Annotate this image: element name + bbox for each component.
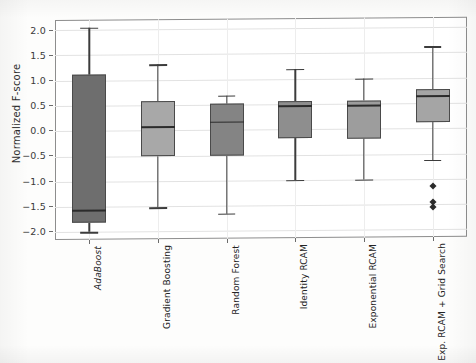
median-line <box>416 95 450 97</box>
y-tick-mark <box>49 155 53 156</box>
outlier-marker <box>429 183 436 190</box>
box-iqr <box>278 101 312 138</box>
outlier-marker <box>429 204 436 211</box>
upper-whisker <box>363 78 364 101</box>
median-line <box>72 210 106 212</box>
y-tick-mark <box>49 231 53 232</box>
plot-area <box>55 20 467 240</box>
y-tick-label: 2.0 <box>30 25 46 36</box>
x-tick-label: Random Forest <box>231 245 241 315</box>
x-tick-mark <box>89 240 90 244</box>
upper-whisker-cap <box>286 69 304 71</box>
upper-whisker-cap <box>355 78 373 80</box>
y-tick-label: 1.5 <box>30 50 46 61</box>
box-plot-data-layer <box>55 17 467 240</box>
y-tick-mark <box>49 55 53 56</box>
lower-whisker-cap <box>286 180 304 182</box>
box-iqr <box>347 101 381 139</box>
y-tick-mark <box>49 105 53 106</box>
median-line <box>347 104 381 106</box>
y-axis-label: Normalized F-score <box>11 34 22 194</box>
y-tick-label: 1.0 <box>30 75 46 86</box>
lower-whisker <box>226 155 227 213</box>
x-tick-label: Exponential RCAM <box>368 244 378 329</box>
x-tick-label: AdaBoost <box>93 246 103 290</box>
x-tick-label: Gradient Boosting <box>162 245 172 329</box>
y-tick-label: −0.5 <box>22 150 46 161</box>
upper-whisker <box>295 69 296 102</box>
upper-whisker-cap <box>149 64 167 66</box>
x-tick-mark <box>227 239 228 243</box>
y-axis-ticks: 2.01.51.00.50.0−0.5−1.0−1.5−2.0 <box>0 20 55 240</box>
upper-whisker-cap <box>424 46 442 48</box>
y-tick-mark <box>49 130 53 131</box>
box-iqr <box>72 74 106 223</box>
y-tick-label: 0.5 <box>30 100 46 111</box>
lower-whisker-cap <box>355 179 373 181</box>
scan-header-artifact <box>6 0 206 9</box>
x-tick-mark <box>364 238 365 242</box>
lower-whisker <box>157 156 158 208</box>
median-line <box>210 121 244 123</box>
median-line <box>141 126 175 128</box>
y-tick-mark <box>49 30 53 31</box>
lower-whisker <box>363 139 364 179</box>
box-plot-group <box>398 17 467 238</box>
y-tick-mark <box>49 181 53 182</box>
x-axis-ticks: AdaBoostGradient BoostingRandom ForestId… <box>55 240 467 360</box>
box-iqr <box>416 89 450 123</box>
y-tick-mark <box>49 80 53 81</box>
upper-whisker <box>432 46 433 88</box>
y-tick-label: −1.5 <box>22 200 46 211</box>
x-tick-mark <box>158 239 159 243</box>
lower-whisker <box>89 223 90 232</box>
box-plot-group <box>124 19 193 240</box>
x-tick-mark <box>295 238 296 242</box>
lower-whisker <box>295 138 296 179</box>
lower-whisker-cap <box>424 160 442 162</box>
upper-whisker-cap <box>218 95 236 97</box>
x-tick-label: Identity RCAM <box>299 244 309 309</box>
y-tick-label: −2.0 <box>22 225 46 236</box>
y-tick-label: 0.0 <box>30 125 46 136</box>
y-tick-mark <box>49 206 53 207</box>
box-iqr <box>210 103 244 155</box>
upper-whisker <box>89 27 90 74</box>
box-plot-group <box>330 17 399 238</box>
upper-whisker <box>157 64 158 101</box>
lower-whisker-cap <box>218 213 236 215</box>
box-plot-group <box>261 18 330 239</box>
box-plot-group <box>55 19 124 240</box>
upper-whisker-cap <box>80 27 98 29</box>
lower-whisker-cap <box>80 232 98 234</box>
lower-whisker-cap <box>149 207 167 209</box>
chart-page: 2.01.51.00.50.0−0.5−1.0−1.5−2.0 Normaliz… <box>0 0 476 363</box>
box-iqr <box>141 101 175 156</box>
median-line <box>278 105 312 107</box>
x-tick-label: Exp. RCAM + Grid Search <box>437 243 447 361</box>
box-plot-group <box>192 18 261 239</box>
lower-whisker <box>432 122 433 159</box>
y-tick-label: −1.0 <box>22 175 46 186</box>
x-tick-mark <box>433 237 434 241</box>
